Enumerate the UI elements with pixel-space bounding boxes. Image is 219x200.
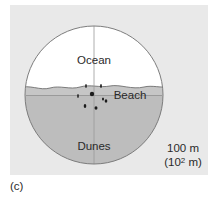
occurrence-marker	[90, 92, 94, 97]
zone-label-dunes: Dunes	[77, 140, 110, 152]
occurrence-marker	[85, 84, 87, 88]
figure-c-coastal-zonation: Ocean Beach Dunes 100 m (102 m) (c)	[0, 0, 219, 200]
zone-label-ocean: Ocean	[77, 54, 111, 66]
occurrence-marker	[102, 97, 104, 100]
scale-exponent-base: (10	[164, 156, 181, 168]
scale-distance-label: 100 m	[167, 142, 199, 154]
occurrence-marker	[100, 84, 102, 88]
scale-exponent-tail: m)	[185, 156, 202, 168]
occurrence-marker	[84, 104, 87, 108]
occurrence-marker	[105, 99, 108, 102]
occurrence-marker	[95, 106, 98, 110]
figure-sublabel: (c)	[10, 179, 23, 193]
occurrence-marker	[77, 94, 79, 98]
zone-label-beach: Beach	[114, 89, 147, 101]
scale-scientific-label: (102 m)	[164, 156, 202, 169]
coastal-zonation-diagram: Ocean Beach Dunes 100 m (102 m)	[0, 0, 219, 200]
